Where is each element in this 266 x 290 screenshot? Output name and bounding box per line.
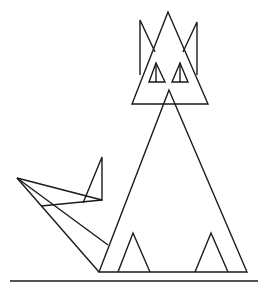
cat-foot-left xyxy=(118,233,150,272)
cat-body xyxy=(99,90,247,272)
cat-eye-left xyxy=(149,63,165,82)
cat-tail-lower xyxy=(17,178,99,272)
cat-drawing xyxy=(0,0,266,290)
cat-ear-right xyxy=(183,22,197,75)
cat-foot-right xyxy=(195,233,228,272)
cat-tail-middle xyxy=(17,178,108,245)
cat-ear-left xyxy=(140,20,155,75)
cat-figure-svg xyxy=(0,0,266,290)
cat-tail-upper xyxy=(17,157,102,203)
